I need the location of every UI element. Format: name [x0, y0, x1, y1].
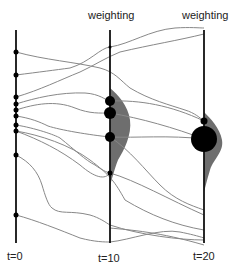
time-label-t10: t=10	[98, 252, 120, 264]
time-label-t20: t=20	[193, 250, 215, 262]
weight-density-t20	[204, 112, 222, 192]
weighting-label-t20: weighting	[182, 9, 228, 21]
time-label-t0: t=0	[7, 250, 23, 262]
trajectory-diagram	[0, 0, 237, 270]
weighting-label-t10: weighting	[88, 9, 134, 21]
